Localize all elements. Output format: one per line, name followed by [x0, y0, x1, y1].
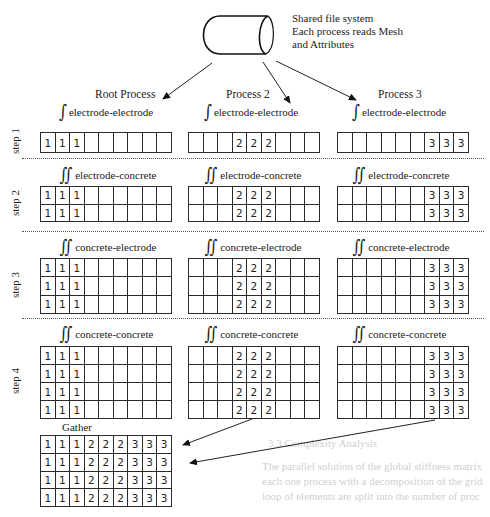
grid-cell [84, 295, 99, 313]
grid-cell: 2 [261, 347, 276, 365]
grid-cell: 3 [425, 259, 440, 277]
integral-term-text: concrete-electrode [75, 241, 156, 254]
background-text-line: 3.3 Complexity Analysis [268, 437, 377, 449]
grid-cell: 1 [55, 365, 70, 383]
gather-cell: 2 [99, 436, 114, 454]
grid-cell [157, 295, 172, 313]
gather-cell: 3 [142, 453, 157, 471]
grid-cell [99, 187, 114, 205]
grid-cell [276, 187, 291, 205]
grid-cell [203, 133, 218, 153]
grid-cell [290, 204, 305, 222]
grid-cell [218, 295, 233, 313]
grid-cell [218, 204, 233, 222]
file-system-line-1: Shared file system [292, 12, 403, 25]
integral-term-label: ∬concrete-electrode [58, 238, 156, 254]
grid-cell [99, 204, 114, 222]
grid-cell [381, 347, 396, 365]
grid-cell [218, 383, 233, 401]
integral-term-label: ∬concrete-concrete [203, 325, 298, 341]
process-grid-p2: 222222222222 [188, 346, 320, 419]
grid-cell: 1 [55, 401, 70, 419]
grid-cell [128, 133, 143, 153]
grid-cell: 1 [55, 277, 70, 295]
arrow-to-process-3 [276, 61, 356, 100]
grid-cell [189, 383, 204, 401]
gather-cell: 3 [128, 489, 143, 507]
grid-cell [276, 259, 291, 277]
integral-icon: ∬ [60, 325, 73, 341]
step-separator [22, 231, 484, 232]
grid-cell [396, 347, 411, 365]
grid-cell [396, 383, 411, 401]
grid-cell: 1 [55, 347, 70, 365]
grid-cell [84, 401, 99, 419]
grid-cell [338, 259, 353, 277]
grid-cell: 2 [232, 277, 247, 295]
grid-cell [381, 401, 396, 419]
grid-cell [84, 133, 99, 153]
process-grid-root: 111 [40, 132, 172, 153]
grid-cell [189, 347, 204, 365]
grid-cell [157, 401, 172, 419]
grid-cell: 3 [454, 401, 469, 419]
grid-row: 222 [189, 365, 320, 383]
grid-cell [396, 365, 411, 383]
grid-cell: 3 [425, 365, 440, 383]
grid-row: 111 [41, 383, 172, 401]
grid-cell [290, 295, 305, 313]
grid-cell [410, 401, 425, 419]
integral-term-text: electrode-concrete [368, 169, 449, 182]
grid-cell: 1 [55, 295, 70, 313]
grid-cell [396, 204, 411, 222]
grid-cell [203, 204, 218, 222]
grid-cell [381, 133, 396, 153]
grid-cell: 1 [70, 295, 85, 313]
grid-cell [157, 133, 172, 153]
gather-cell: 1 [55, 471, 70, 489]
grid-cell [128, 259, 143, 277]
gather-cell: 2 [113, 436, 128, 454]
grid-cell: 2 [261, 204, 276, 222]
grid-cell: 1 [41, 383, 56, 401]
gather-cell: 1 [55, 436, 70, 454]
grid-cell: 1 [70, 187, 85, 205]
gather-cell: 2 [113, 489, 128, 507]
grid-cell: 2 [247, 365, 262, 383]
grid-cell [113, 295, 128, 313]
grid-row: 333 [338, 295, 469, 313]
grid-cell [157, 383, 172, 401]
grid-cell [142, 365, 157, 383]
grid-cell: 1 [41, 259, 56, 277]
grid-cell [305, 383, 320, 401]
grid-cell [128, 204, 143, 222]
grid-cell [367, 383, 382, 401]
grid-cell [203, 187, 218, 205]
grid-cell [305, 259, 320, 277]
arrow-to-root [163, 63, 212, 99]
grid-cell [203, 277, 218, 295]
gather-title: Gather [62, 421, 92, 433]
grid-cell [157, 347, 172, 365]
gather-cell: 1 [55, 489, 70, 507]
step-label: step 3 [9, 270, 21, 300]
grid-cell [410, 187, 425, 205]
grid-cell [276, 383, 291, 401]
gather-cell: 1 [70, 471, 85, 489]
grid-cell [189, 133, 204, 153]
grid-cell [84, 347, 99, 365]
integral-term-label: ∬concrete-concrete [58, 325, 153, 341]
grid-cell: 1 [55, 259, 70, 277]
gather-cell: 1 [41, 489, 56, 507]
process-grid-p3: 333333333 [337, 258, 469, 314]
column-title-process-3: Process 3 [378, 88, 422, 100]
grid-cell [352, 133, 367, 153]
grid-cell [189, 401, 204, 419]
grid-cell [367, 347, 382, 365]
grid-cell [218, 401, 233, 419]
grid-cell: 1 [41, 347, 56, 365]
integral-term-text: electrode-electrode [362, 106, 446, 119]
grid-cell [305, 295, 320, 313]
grid-cell [189, 259, 204, 277]
integral-icon: ∬ [205, 238, 218, 254]
